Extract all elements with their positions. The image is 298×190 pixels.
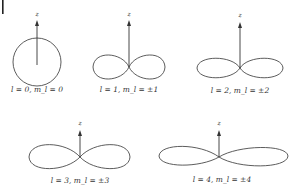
z-axis-label: z <box>34 10 39 17</box>
arrowhead-icon <box>35 20 39 26</box>
z-axis-label: z <box>237 11 242 18</box>
panel-label: l = 0, m_l = 0 <box>11 85 63 94</box>
arrowhead-icon <box>238 22 242 28</box>
arrowhead-icon <box>78 130 82 136</box>
panel-l1: z l = 1, m_l = ±1 <box>93 10 165 94</box>
panel-label: l = 4, m_l = ±4 <box>193 175 252 184</box>
arrowhead-icon <box>217 130 221 136</box>
arrowhead-icon <box>127 20 131 26</box>
panel-l4: z l = 4, m_l = ±4 <box>159 119 288 184</box>
z-axis-label: z <box>126 10 131 17</box>
panel-l0: z l = 0, m_l = 0 <box>11 10 63 94</box>
figure-eight-curve <box>159 146 288 166</box>
panel-label: l = 3, m_l = ±3 <box>51 176 110 185</box>
panel-l3: z l = 3, m_l = ±3 <box>29 119 130 185</box>
z-axis-label: z <box>77 119 82 126</box>
angular-momentum-diagram: z l = 0, m_l = 0 z l = 1, m_l = ±1 z l =… <box>0 0 298 190</box>
figure-eight-curve <box>29 145 130 169</box>
panel-l2: z l = 2, m_l = ±2 <box>197 11 283 95</box>
panel-label: l = 2, m_l = ±2 <box>211 86 270 95</box>
edge-bar <box>2 0 4 14</box>
panel-label: l = 1, m_l = ±1 <box>100 85 158 94</box>
z-axis-label: z <box>216 119 221 126</box>
